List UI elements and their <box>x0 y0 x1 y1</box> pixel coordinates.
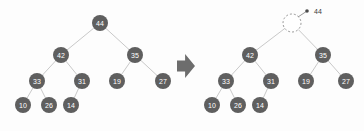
node-value-label: 35 <box>131 52 139 59</box>
node-value-label: 42 <box>57 52 65 59</box>
left-tree-edges <box>27 28 157 98</box>
node-value-label: 27 <box>159 78 167 85</box>
tree-edge <box>122 62 131 75</box>
tree-edge <box>106 28 129 49</box>
node-value-label: 19 <box>113 78 121 85</box>
tree-edge <box>328 61 340 75</box>
tree-edge <box>256 28 284 50</box>
tree-edge <box>216 88 222 98</box>
tree-node-27: 27 <box>338 73 354 89</box>
tree-node-42: 42 <box>53 47 69 63</box>
callout-arrow-head-icon <box>305 9 309 13</box>
node-value-label: 26 <box>234 102 242 109</box>
node-value-label: 35 <box>319 52 327 59</box>
node-value-label: 14 <box>67 102 75 109</box>
node-value-label: 42 <box>246 52 254 59</box>
node-value-label: 33 <box>222 78 230 85</box>
tree-node-14: 14 <box>252 97 268 113</box>
removed-value-callout: 44 <box>298 8 322 18</box>
figure-canvas: 44423533311927102614 423533311927102614 … <box>0 0 364 131</box>
node-value-label: 10 <box>19 102 27 109</box>
tree-node-14: 14 <box>63 97 79 113</box>
node-value-label: 19 <box>302 78 310 85</box>
right-tree-edges <box>216 28 341 98</box>
node-value-label: 14 <box>256 102 264 109</box>
tree-node-31: 31 <box>74 73 90 89</box>
tree-node-19: 19 <box>109 73 125 89</box>
tree-edge <box>41 88 46 98</box>
tree-node-33: 33 <box>218 73 234 89</box>
right-arrow-icon <box>177 54 195 78</box>
tree-node-26: 26 <box>230 97 246 113</box>
tree-node-35: 35 <box>127 47 143 63</box>
tree-edge <box>74 88 78 97</box>
tree-node-26: 26 <box>41 97 57 113</box>
node-value-label: 31 <box>78 78 86 85</box>
node-value-label: 26 <box>45 102 53 109</box>
right-tree-nodes: 423533311927102614 <box>204 47 354 113</box>
tree-diagram-svg: 44423533311927102614 423533311927102614 … <box>0 0 364 131</box>
tree-edge <box>66 61 77 75</box>
tree-node-35: 35 <box>315 47 331 63</box>
tree-node-33: 33 <box>29 73 45 89</box>
tree-edge <box>42 61 55 75</box>
node-value-label: 44 <box>96 20 104 27</box>
node-value-label: 27 <box>342 78 350 85</box>
tree-edge <box>298 29 317 49</box>
removed-value-label: 44 <box>314 8 322 15</box>
tree-node-31: 31 <box>263 73 279 89</box>
transform-arrow-group <box>177 54 195 78</box>
tree-edge <box>27 88 33 98</box>
tree-node-44: 44 <box>92 15 108 31</box>
left-tree-nodes: 44423533311927102614 <box>15 15 171 113</box>
tree-edge <box>230 88 235 98</box>
node-value-label: 33 <box>33 78 41 85</box>
tree-node-42: 42 <box>242 47 258 63</box>
tree-edge <box>141 60 157 75</box>
tree-node-19: 19 <box>298 73 314 89</box>
tree-edge <box>263 88 267 97</box>
tree-edge <box>231 61 244 75</box>
tree-node-27: 27 <box>155 73 171 89</box>
node-value-label: 10 <box>208 102 216 109</box>
node-value-label: 31 <box>267 78 275 85</box>
tree-edge <box>310 62 318 75</box>
tree-node-10: 10 <box>204 97 220 113</box>
tree-edge <box>67 28 94 50</box>
tree-node-10: 10 <box>15 97 31 113</box>
tree-edge <box>255 61 266 75</box>
